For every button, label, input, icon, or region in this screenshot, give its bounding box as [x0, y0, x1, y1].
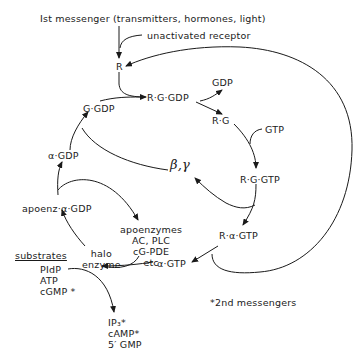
g-protein-cycle-diagram: Ist messenger (transmitters, hormones, l…: [0, 0, 362, 364]
beta-gamma-node: β,γ: [170, 159, 190, 170]
holo-enzyme-node: halo enzyme: [82, 248, 121, 270]
r-g-gdp-node: R·G·GDP: [147, 92, 189, 103]
alpha-gdp-node: α·GDP: [48, 150, 79, 161]
arrows-layer: [0, 0, 362, 364]
r-g-gtp-node: R·G·GTP: [240, 174, 280, 185]
r-g-node: R·G: [212, 115, 230, 126]
substrates-heading: substrates: [15, 250, 67, 261]
gtp-node: GTP: [265, 124, 284, 135]
substrates-list: PIdP ATP cGMP *: [40, 264, 75, 297]
first-messenger-label: Ist messenger (transmitters, hormones, l…: [40, 13, 266, 24]
g-gdp-node: G·GDP: [83, 103, 115, 114]
footnote-second-messengers: *2nd messengers: [210, 297, 296, 308]
apoenzymes-node: apoenzymes AC, PLC cG-PDE etc: [120, 224, 182, 268]
gdp-release-node: GDP: [212, 77, 233, 88]
products-list: IP₃* cAMP* 5′ GMP: [108, 317, 142, 350]
apoenz-alpha-gdp-node: apoenz·α·GDP: [22, 203, 92, 214]
receptor-node: R: [116, 61, 123, 72]
unactivated-receptor-label: unactivated receptor: [147, 30, 251, 41]
r-alpha-gtp-node: R·α·GTP: [219, 230, 258, 241]
